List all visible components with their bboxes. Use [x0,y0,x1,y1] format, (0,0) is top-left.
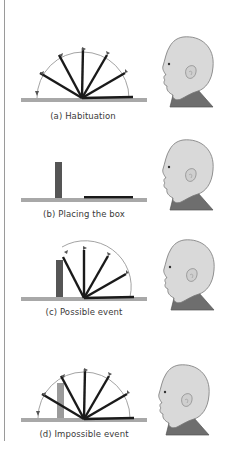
panel-placing-box: (b) Placing the box [0,125,228,225]
panel-possible-event: (c) Possible event [0,225,228,325]
box [56,260,63,297]
arrowheads [36,368,130,416]
caption-placing-box: (b) Placing the box [43,209,125,219]
infant-head [164,240,214,310]
caption-habituation: (a) Habituation [50,111,116,121]
infant-head [163,37,213,107]
rotation-arc [62,241,131,297]
screen-flat [84,196,133,198]
infant-head [159,365,209,435]
floor [21,198,147,202]
caption-impossible-event: (d) Impossible event [39,429,128,439]
habituation-diagram [0,0,228,125]
panel-habituation: (a) Habituation [0,0,228,125]
arrowheads [64,246,129,274]
screen-positions [63,250,134,298]
infant-head [163,140,213,210]
screen-positions [40,48,133,98]
caption-possible-event: (c) Possible event [46,307,123,317]
box-faded [57,383,64,418]
box [55,162,62,198]
screen-positions [42,369,134,419]
panel-impossible-event: (d) Impossible event [0,325,228,449]
